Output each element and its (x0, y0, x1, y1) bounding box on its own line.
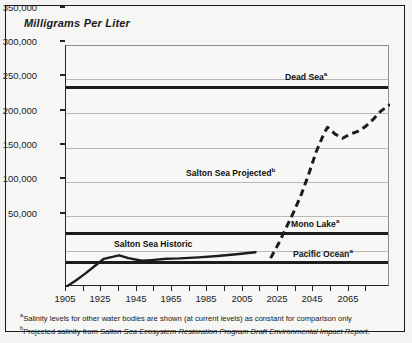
x-tick-label-2045: 2045 (301, 293, 322, 304)
x-tick-label-1945: 1945 (125, 293, 146, 304)
x-tick-mark-1995 (224, 286, 225, 291)
footnote-b: bProjected salinity from Salton Sea Ecos… (20, 324, 406, 337)
footnote-a: aSalinity levels for other water bodies … (20, 311, 406, 324)
label-mono-lake: Mono Lakea (291, 217, 339, 229)
y-tick-mark-350000 (60, 6, 65, 8)
x-tick-mark-2025 (277, 286, 278, 291)
label-salton-sea-historic: Salton Sea Historic (114, 239, 192, 249)
line-salton-sea-projected (271, 105, 390, 259)
x-tick-label-1985: 1985 (195, 293, 216, 304)
x-tick-mark-1975 (189, 286, 190, 291)
footnotes: aSalinity levels for other water bodies … (20, 311, 406, 336)
y-tick-label-250000: 250,000 (0, 70, 37, 81)
y-tick-label-200000: 200,000 (0, 105, 37, 116)
plot-area: Dead Seaa Mono Lakea Pacific Oceana Salt… (65, 45, 389, 286)
chart-figure: Milligrams Per Liter 350,000 300,000 250… (0, 0, 412, 343)
x-tick-mark-1905 (65, 286, 66, 291)
y-tick-label-100000: 100,000 (0, 173, 37, 184)
chart-title: Milligrams Per Liter (24, 17, 130, 29)
x-tick-label-2065: 2065 (337, 293, 358, 304)
x-tick-mark-1925 (100, 286, 101, 291)
x-tick-label-1925: 1925 (89, 293, 110, 304)
x-tick-mark-2065 (348, 286, 349, 291)
x-tick-mark-1965 (171, 286, 172, 291)
x-tick-label-2005: 2005 (231, 293, 252, 304)
x-tick-mark-1985 (206, 286, 207, 291)
y-tick-label-50000: 50,000 (0, 208, 37, 219)
x-tick-mark-1955 (153, 286, 154, 291)
line-salton-sea-historic (66, 252, 256, 287)
x-tick-mark-2055 (330, 286, 331, 291)
x-tick-mark-2005 (242, 286, 243, 291)
y-tick-label-300000: 300,000 (0, 36, 37, 47)
x-tick-mark-1945 (136, 286, 137, 291)
x-tick-label-2025: 2025 (266, 293, 287, 304)
y-tick-label-150000: 150,000 (0, 139, 37, 150)
x-tick-mark-2075 (365, 286, 366, 291)
label-salton-sea-projected: Salton Sea Projectedb (186, 166, 275, 178)
x-tick-mark-1915 (83, 286, 84, 291)
x-tick-label-1905: 1905 (54, 293, 75, 304)
x-tick-mark-2015 (259, 286, 260, 291)
label-pacific-ocean: Pacific Oceana (293, 247, 353, 259)
x-tick-mark-1935 (118, 286, 119, 291)
label-dead-sea: Dead Seaa (285, 70, 327, 82)
x-tick-mark-2035 (295, 286, 296, 291)
y-tick-label-350000: 350,000 (0, 2, 37, 13)
x-tick-mark-2045 (312, 286, 313, 291)
y-tick-mark-300000 (60, 40, 65, 42)
x-tick-label-1965: 1965 (160, 293, 181, 304)
figure-frame: Milligrams Per Liter 350,000 300,000 250… (5, 5, 405, 332)
